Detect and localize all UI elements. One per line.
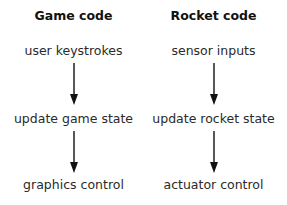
- down-arrow-icon: [69, 131, 79, 173]
- rocket-step-output: actuator control: [132, 177, 287, 192]
- rocket-step-update: update rocket state: [132, 111, 287, 126]
- game-code-title: Game code: [2, 8, 145, 23]
- game-code-column: Game code user keystrokes update game st…: [2, 0, 145, 205]
- rocket-code-title: Rocket code: [142, 8, 285, 23]
- down-arrow-icon: [209, 63, 219, 105]
- down-arrow-icon: [69, 63, 79, 105]
- rocket-code-column: Rocket code sensor inputs update rocket …: [142, 0, 285, 205]
- rocket-step-input: sensor inputs: [132, 43, 287, 58]
- down-arrow-icon: [209, 131, 219, 173]
